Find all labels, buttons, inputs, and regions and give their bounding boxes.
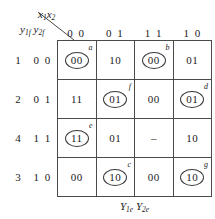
row-state-code: 1 0 — [28, 171, 57, 183]
row-state-number: 1 — [8, 54, 28, 66]
cell-tag: c — [127, 161, 131, 169]
table-row: 11 e 01 – 10 — [58, 119, 211, 158]
table-cell: 10 g — [174, 158, 212, 196]
cell-value: 00 — [71, 172, 83, 183]
row-state-code: 0 1 — [28, 93, 57, 105]
table-cell: 11 — [58, 80, 97, 118]
table-cell: 00 — [135, 80, 174, 118]
cell-value: 00 — [142, 52, 166, 69]
cell-tag: b — [166, 44, 170, 52]
cell-tag: a — [89, 44, 93, 52]
table-cell: 00 a — [58, 41, 97, 79]
cell-value: 11 — [65, 130, 89, 147]
row-state-code: 0 0 — [28, 54, 57, 66]
cell-value: – — [151, 133, 157, 144]
table-cell: 10 — [174, 119, 212, 157]
row-header-column: 1 0 0 2 0 1 4 1 1 3 1 0 — [8, 40, 57, 197]
cell-value: 11 — [71, 94, 83, 105]
table-cell: 01 d — [174, 80, 212, 118]
cell-value: 10 — [109, 55, 121, 66]
row-header: 3 1 0 — [8, 158, 57, 197]
cell-tag: d — [204, 83, 208, 91]
cell-value: 10 — [103, 169, 127, 186]
figure-caption: Y1e Y2e — [57, 200, 212, 214]
column-header: 0 1 — [96, 26, 135, 40]
column-header: 1 1 — [135, 26, 174, 40]
row-header: 2 0 1 — [8, 79, 57, 118]
cell-value: 00 — [148, 94, 160, 105]
row-variable-label: y1f y2f — [20, 23, 44, 37]
column-variable-label: x1x2 — [38, 8, 55, 22]
table-row: 00 a 10 00 b 01 — [58, 41, 211, 80]
row-state-code: 1 1 — [28, 132, 57, 144]
row-state-number: 3 — [8, 171, 28, 183]
row-state-number: 4 — [8, 132, 28, 144]
table-cell: 10 — [97, 41, 136, 79]
column-header: 1 0 — [173, 26, 212, 40]
table-cell: 10 c — [97, 158, 136, 196]
table-cell: 01 — [97, 119, 136, 157]
cell-value: 10 — [180, 169, 204, 186]
table-cell: 01 — [174, 41, 212, 79]
row-state-number: 2 — [8, 93, 28, 105]
table-cell: – — [135, 119, 174, 157]
column-header-row: 0 0 0 1 1 1 1 0 — [57, 26, 212, 40]
table-row: 00 10 c 00 10 g — [58, 158, 211, 196]
table-cell: 01 f — [97, 80, 136, 118]
table-cell: 00 b — [135, 41, 174, 79]
flow-table-grid: 00 a 10 00 b 01 11 01 f — [57, 40, 212, 197]
column-header: 0 0 — [57, 26, 96, 40]
flow-table-figure: x1x2 y1f y2f 0 0 0 1 1 1 1 0 1 0 0 2 0 1… — [0, 0, 215, 219]
cell-value: 01 — [103, 91, 127, 108]
row-header: 1 0 0 — [8, 40, 57, 79]
cell-value: 00 — [148, 172, 160, 183]
cell-tag: e — [89, 122, 93, 130]
cell-value: 01 — [180, 91, 204, 108]
cell-value: 01 — [186, 55, 198, 66]
cell-value: 01 — [109, 133, 121, 144]
table-cell: 00 — [58, 158, 97, 196]
cell-value: 00 — [65, 52, 89, 69]
row-header: 4 1 1 — [8, 119, 57, 158]
cell-tag: g — [204, 161, 208, 169]
cell-tag: f — [129, 83, 131, 91]
cell-value: 10 — [186, 133, 198, 144]
table-cell: 00 — [135, 158, 174, 196]
table-cell: 11 e — [58, 119, 97, 157]
table-row: 11 01 f 00 01 d — [58, 80, 211, 119]
